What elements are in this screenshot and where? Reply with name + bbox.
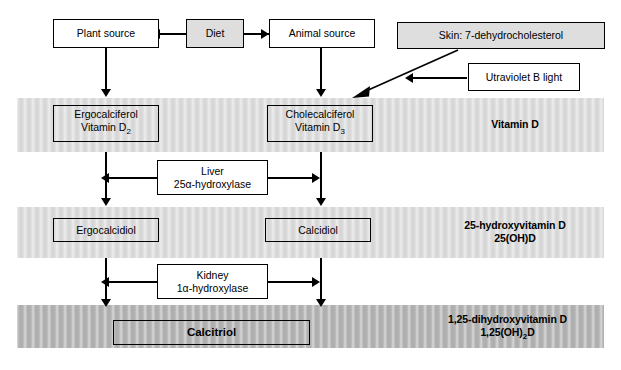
connector-animal-to-cholecalciferol [320, 46, 322, 91]
connector-plant-to-ergocalciferol [105, 46, 107, 91]
box-calcitriol-label: Calcitriol [114, 326, 309, 339]
box-kidney-1-alpha-hydroxylase[interactable]: Kidney 1α-hydroxylase [157, 264, 268, 299]
box-diet-label: Diet [187, 27, 243, 40]
box-ultraviolet-b-light[interactable]: Utraviolet B light [468, 63, 580, 91]
arrowhead-kidney-to-right-branch [312, 277, 320, 287]
arrowhead-uvb-to-skin-pathway [405, 73, 413, 83]
box-calcidiol[interactable]: Calcidiol [265, 218, 371, 242]
arrowhead-plant-to-ergocalciferol [101, 89, 111, 97]
band-label-25ohd-line1: 25-hydroxyvitamin D [430, 219, 600, 232]
connector-diet-to-plant [159, 33, 186, 35]
band-label-125ohd-line2: 1,25(OH)2D [415, 326, 600, 343]
arrowhead-liver-to-right-branch [312, 173, 320, 183]
connector-calcidiol-to-calcitriol [320, 258, 322, 302]
connector-liver-to-right-branch [267, 177, 317, 179]
arrowhead-kidney-to-left-branch [101, 277, 109, 287]
box-ergocalciferol-label: Ergocalciferol Vitamin D2 [54, 108, 158, 138]
box-plant-source[interactable]: Plant source [53, 19, 159, 48]
box-liver-25-alpha-hydroxylase[interactable]: Liver 25α-hydroxylase [157, 160, 268, 195]
connector-uvb-to-skin-pathway [412, 77, 467, 79]
box-cholecalciferol[interactable]: Cholecalciferol Vitamin D3 [267, 105, 373, 142]
arrowhead-skin-to-cholecalciferol [352, 86, 370, 98]
connector-kidney-to-right-branch [267, 281, 317, 283]
connector-kidney-to-left-branch [108, 281, 158, 283]
box-calcitriol[interactable]: Calcitriol [113, 320, 310, 345]
box-skin-label: Skin: 7-dehydrocholesterol [398, 29, 604, 42]
band-label-25ohd-line2: 25(OH)D [430, 232, 600, 245]
arrowhead-diet-to-animal [261, 29, 269, 39]
arrowhead-liver-to-left-branch [101, 173, 109, 183]
box-plant-source-label: Plant source [54, 27, 158, 40]
box-ergocalcidiol-label: Ergocalcidiol [54, 224, 158, 237]
arrowhead-cholecalciferol-to-calcidiol [316, 198, 326, 206]
band-label-25-hydroxyvitamin-d: 25-hydroxyvitamin D 25(OH)D [430, 219, 600, 245]
box-diet[interactable]: Diet [186, 19, 244, 48]
box-ergocalcidiol[interactable]: Ergocalcidiol [53, 218, 159, 242]
vitamin-d-metabolism-diagram: Vitamin D 25-hydroxyvitamin D 25(OH)D 1,… [0, 0, 621, 370]
box-skin-7-dehydrocholesterol[interactable]: Skin: 7-dehydrocholesterol [397, 22, 605, 49]
arrowhead-animal-to-cholecalciferol [316, 89, 326, 97]
arrowhead-ergocalciferol-to-ergocalcidiol [101, 198, 111, 206]
box-animal-source-label: Animal source [270, 27, 374, 40]
box-kidney-label: Kidney 1α-hydroxylase [158, 269, 267, 295]
box-liver-label: Liver 25α-hydroxylase [158, 165, 267, 191]
arrowhead-calcidiol-to-calcitriol [316, 299, 326, 307]
skin-to-cholecalciferol-diagonal-line [366, 50, 458, 91]
box-ergocalciferol[interactable]: Ergocalciferol Vitamin D2 [53, 105, 159, 142]
band-label-125ohd-line1: 1,25-dihydroxyvitamin D [415, 313, 600, 326]
band-label-1-25-dihydroxyvitamin-d: 1,25-dihydroxyvitamin D 1,25(OH)2D [415, 313, 600, 343]
connector-cholecalciferol-to-calcidiol [320, 152, 322, 200]
box-cholecalciferol-label: Cholecalciferol Vitamin D3 [268, 108, 372, 138]
band-label-vitamin-d: Vitamin D [440, 118, 590, 131]
arrowhead-ergocalcidiol-to-calcitriol [101, 299, 111, 307]
connector-liver-to-left-branch [108, 177, 158, 179]
band-label-vitamin-d-text: Vitamin D [491, 118, 538, 130]
box-calcidiol-label: Calcidiol [266, 224, 370, 237]
box-animal-source[interactable]: Animal source [269, 19, 375, 48]
box-uvb-label: Utraviolet B light [469, 71, 579, 84]
